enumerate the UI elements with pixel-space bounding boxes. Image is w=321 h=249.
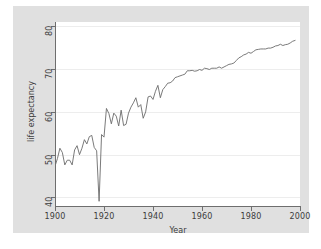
x-axis-title: Year — [55, 226, 301, 235]
x-axis-line — [55, 206, 301, 207]
chart-figure: 4050607080 190019201940196019802000 life… — [0, 0, 321, 249]
x-tick-1980 — [251, 207, 252, 211]
x-tick-label-1900: 1900 — [35, 212, 75, 221]
y-tick-label-70: 70 — [45, 69, 54, 99]
y-axis-title: life expectancy — [27, 72, 36, 152]
x-tick-1960 — [202, 207, 203, 211]
x-tick-1900 — [55, 207, 56, 211]
x-tick-2000 — [300, 207, 301, 211]
data-series-line — [55, 22, 300, 206]
plot-area — [55, 22, 300, 206]
y-tick-label-60: 60 — [45, 112, 54, 142]
y-axis-line — [55, 22, 56, 207]
y-tick-label-50: 50 — [45, 155, 54, 185]
x-tick-1940 — [153, 207, 154, 211]
y-tick-label-80: 80 — [45, 26, 54, 56]
x-tick-label-1940: 1940 — [133, 212, 173, 221]
x-tick-label-2000: 2000 — [280, 212, 320, 221]
x-tick-label-1920: 1920 — [84, 212, 124, 221]
x-tick-1920 — [104, 207, 105, 211]
x-tick-label-1960: 1960 — [182, 212, 222, 221]
x-tick-label-1980: 1980 — [231, 212, 271, 221]
